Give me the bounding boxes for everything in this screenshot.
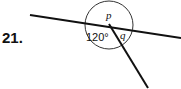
label-p: p [105, 9, 112, 21]
label-q: q [120, 29, 126, 41]
transversal-line [109, 24, 148, 88]
label-angle-120: 120° [86, 31, 109, 43]
angle-diagram: p q 120° [0, 0, 181, 89]
